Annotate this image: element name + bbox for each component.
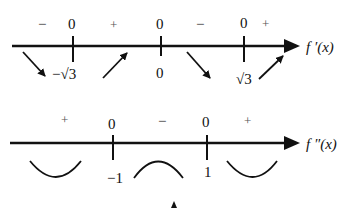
concave-up-icon [30,161,81,177]
concavity-sign-3: + [244,113,251,128]
zero-above-2: 0 [156,16,164,32]
concavity-sign-1: + [61,112,68,127]
f-double-prime-label: f ″(x) [306,136,337,153]
f-prime-axis-arrowhead-icon [284,39,300,53]
zero-above-inflection-2: 0 [202,114,210,130]
concave-down-icon [134,162,183,179]
decreasing-arrow-icon [23,52,45,76]
increasing-arrow-icon [259,56,283,79]
first-derivative-sign-line: − + − + 0 0 0 −√3 0 √3 f ′(x) [12,15,334,87]
zero-above-inflection-1: 0 [108,116,116,132]
sign-3: − [196,16,204,32]
increasing-arrow-icon [103,53,127,78]
zero-above-1: 0 [68,16,76,32]
critical-point-zero: 0 [156,65,164,81]
critical-point-sqrt3: √3 [236,71,252,87]
sign-4: + [262,16,269,31]
inflection-point-one: 1 [204,164,212,180]
decreasing-arrow-icon [187,52,210,78]
concavity-sign-2: − [158,113,166,129]
concave-up-icon [227,161,277,177]
second-derivative-sign-line: + − + 0 0 −1 1 f ″(x) [10,112,337,186]
critical-point-neg-sqrt3: −√3 [52,66,76,82]
sign-2: + [110,17,117,32]
partial-arrow-icon [171,201,177,208]
sign-1: − [38,16,46,32]
inflection-point-neg-one: −1 [107,170,123,186]
zero-above-3: 0 [240,15,248,31]
sign-chart-diagram: − + − + 0 0 0 −√3 0 √3 f ′(x) + − + 0 0 … [0,0,354,213]
f-double-prime-axis-arrowhead-icon [284,136,300,150]
f-prime-label: f ′(x) [306,39,334,56]
